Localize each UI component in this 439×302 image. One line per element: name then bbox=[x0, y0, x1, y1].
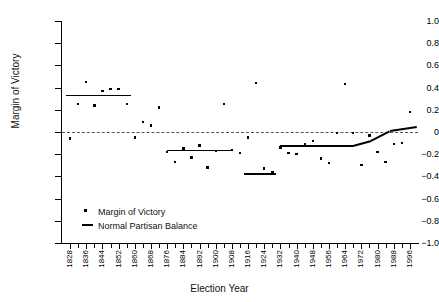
y-axis-title: Margin of Victory bbox=[11, 31, 21, 151]
x-tick bbox=[256, 244, 257, 248]
partisan-balance-segment bbox=[66, 95, 131, 97]
y-tick-label: 0.8 bbox=[389, 39, 439, 48]
x-tick bbox=[216, 244, 217, 249]
x-tick bbox=[264, 244, 265, 249]
x-tick-label: 1836 bbox=[82, 250, 90, 268]
y-tick-label: −0.8 bbox=[389, 217, 439, 226]
x-tick bbox=[183, 244, 184, 249]
y-tick bbox=[55, 21, 61, 22]
data-point bbox=[239, 152, 241, 154]
data-point bbox=[255, 82, 257, 84]
data-point bbox=[206, 166, 208, 168]
x-tick bbox=[361, 244, 362, 249]
data-point bbox=[166, 151, 168, 153]
y-tick-label: 0.6 bbox=[389, 61, 439, 70]
x-tick bbox=[240, 244, 241, 248]
x-tick-label: 1980 bbox=[374, 250, 382, 268]
legend-dot-icon bbox=[84, 209, 87, 212]
data-point bbox=[409, 111, 411, 113]
y-tick bbox=[55, 199, 61, 200]
x-tick bbox=[175, 244, 176, 248]
x-tick bbox=[386, 244, 387, 248]
x-tick bbox=[159, 244, 160, 248]
legend-line-icon bbox=[82, 224, 93, 226]
y-tick bbox=[55, 88, 61, 89]
partisan-balance-segment bbox=[167, 150, 232, 152]
x-tick bbox=[127, 244, 128, 248]
data-point bbox=[279, 146, 281, 148]
x-tick bbox=[353, 244, 354, 248]
data-point bbox=[93, 104, 95, 106]
x-tick bbox=[191, 244, 192, 248]
zero-reference-line bbox=[62, 132, 418, 133]
partisan-balance-segment bbox=[244, 173, 276, 175]
partisan-balance-segment bbox=[353, 141, 370, 147]
data-point bbox=[190, 156, 192, 158]
legend-label: Margin of Victory bbox=[98, 205, 165, 219]
x-tick-label: 1876 bbox=[163, 250, 171, 268]
x-tick bbox=[297, 244, 298, 249]
y-tick-label: 1.0 bbox=[389, 17, 439, 26]
data-point bbox=[401, 142, 403, 144]
x-tick-label: 1900 bbox=[212, 250, 220, 268]
data-point bbox=[85, 81, 87, 83]
x-tick bbox=[329, 244, 330, 249]
data-point bbox=[198, 144, 200, 146]
x-tick bbox=[321, 244, 322, 248]
x-tick-label: 1892 bbox=[196, 250, 204, 268]
data-point bbox=[247, 136, 249, 138]
x-tick bbox=[119, 244, 120, 249]
data-point bbox=[328, 162, 330, 164]
partisan-balance-segment bbox=[280, 145, 353, 147]
x-tick bbox=[224, 244, 225, 248]
y-tick bbox=[55, 110, 61, 111]
data-point bbox=[393, 143, 395, 145]
x-tick-label: 1924 bbox=[260, 250, 268, 268]
data-point bbox=[117, 88, 119, 90]
y-tick bbox=[55, 132, 61, 133]
data-point bbox=[134, 136, 136, 138]
data-point bbox=[77, 103, 79, 105]
x-tick-label: 1964 bbox=[341, 250, 349, 268]
y-tick bbox=[55, 176, 61, 177]
x-tick bbox=[402, 244, 403, 248]
data-point bbox=[384, 161, 386, 163]
y-tick-label: 0.2 bbox=[389, 106, 439, 115]
x-tick bbox=[248, 244, 249, 249]
y-tick-label: −0.4 bbox=[389, 172, 439, 181]
x-tick bbox=[305, 244, 306, 248]
x-tick bbox=[102, 244, 103, 249]
data-point bbox=[142, 121, 144, 123]
data-point bbox=[320, 157, 322, 159]
data-point bbox=[376, 151, 378, 153]
data-point bbox=[150, 124, 152, 126]
y-tick-label: −0.6 bbox=[389, 195, 439, 204]
data-point bbox=[287, 152, 289, 154]
data-point bbox=[368, 134, 370, 136]
x-tick bbox=[86, 244, 87, 249]
x-tick bbox=[345, 244, 346, 249]
x-tick bbox=[410, 244, 411, 249]
y-tick-label: −1.0 bbox=[389, 239, 439, 248]
data-point bbox=[360, 164, 362, 166]
y-tick bbox=[55, 43, 61, 44]
data-point bbox=[312, 140, 314, 142]
x-tick bbox=[143, 244, 144, 248]
data-point bbox=[295, 153, 297, 155]
y-tick-label: 0.4 bbox=[389, 84, 439, 93]
x-tick bbox=[369, 244, 370, 248]
x-tick bbox=[70, 244, 71, 249]
x-tick bbox=[272, 244, 273, 248]
x-tick bbox=[94, 244, 95, 248]
x-tick-label: 1948 bbox=[309, 250, 317, 268]
x-tick bbox=[232, 244, 233, 249]
x-tick bbox=[208, 244, 209, 248]
x-tick-label: 1852 bbox=[115, 250, 123, 268]
x-tick-label: 1932 bbox=[276, 250, 284, 268]
data-point bbox=[109, 88, 111, 90]
data-point bbox=[223, 103, 225, 105]
x-tick bbox=[378, 244, 379, 249]
data-point bbox=[101, 90, 103, 92]
x-axis-title: Election Year bbox=[0, 284, 439, 294]
x-tick bbox=[200, 244, 201, 249]
